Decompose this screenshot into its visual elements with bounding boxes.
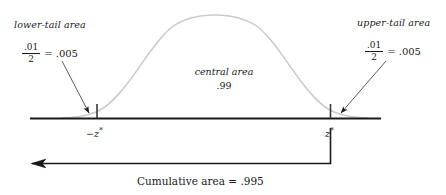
axis-label-positive-z-star: z* bbox=[325, 127, 334, 139]
upper-tail-area-label: upper-tail area bbox=[357, 18, 430, 28]
axis-label-negative-z-star-superscript: * bbox=[99, 126, 103, 135]
lower-tail-area-value: .005 bbox=[56, 48, 78, 59]
leader-line-upper-tail bbox=[341, 61, 386, 113]
lower-tail-equals-sign: = bbox=[44, 48, 52, 59]
cumulative-area-caption: Cumulative area = .995 bbox=[137, 176, 264, 187]
upper-tail-equals-sign: = bbox=[387, 46, 395, 57]
lower-tail-fraction: .01 2 = .005 bbox=[22, 43, 78, 64]
upper-tail-fraction: .01 2 = .005 bbox=[365, 41, 421, 62]
lower-tail-area-label: lower-tail area bbox=[14, 20, 86, 30]
upper-tail-fraction-numerator: .01 bbox=[365, 41, 383, 51]
lower-tail-fraction-numerator: .01 bbox=[22, 43, 40, 53]
leader-line-lower-tail bbox=[62, 61, 89, 113]
axis-label-positive-z-star-superscript: * bbox=[330, 126, 334, 135]
central-area-annotation: central area .99 bbox=[178, 66, 270, 91]
central-area-label: central area bbox=[178, 66, 270, 77]
axis-label-negative-z-star-text: −z bbox=[86, 128, 99, 139]
lower-tail-fraction-denominator: 2 bbox=[26, 54, 36, 64]
lower-tail-fraction-stack: .01 2 bbox=[22, 43, 40, 64]
cumulative-area-arrow bbox=[32, 128, 331, 164]
upper-tail-fraction-denominator: 2 bbox=[369, 52, 379, 62]
central-area-value: .99 bbox=[178, 80, 270, 91]
upper-tail-area-value: .005 bbox=[399, 46, 421, 57]
upper-tail-fraction-stack: .01 2 bbox=[365, 41, 383, 62]
normal-distribution-figure: lower-tail area .01 2 = .005 upper-tail … bbox=[0, 0, 446, 195]
axis-label-negative-z-star: −z* bbox=[86, 127, 103, 139]
